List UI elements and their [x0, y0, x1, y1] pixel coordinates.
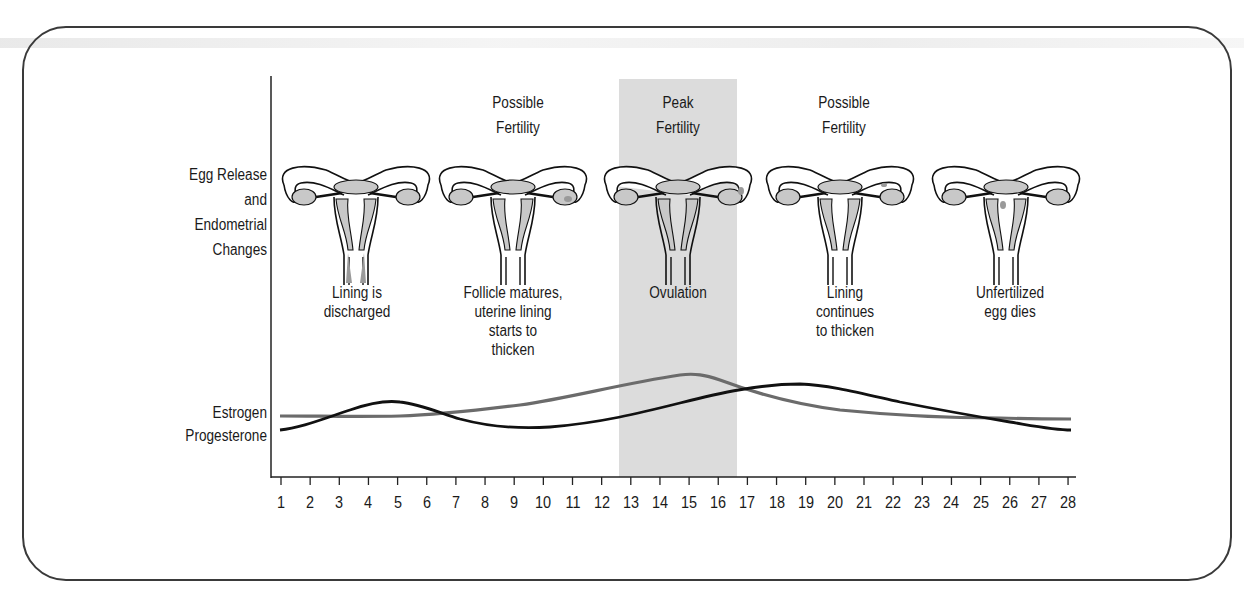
x-tick-label: 9: [501, 493, 527, 513]
caption-line: discharged: [302, 302, 413, 321]
egg-release-label: Egg Release and Endometrial Changes: [150, 165, 267, 259]
x-tick-label: 12: [589, 493, 615, 513]
x-tick-label: 4: [356, 493, 382, 513]
caption-line: to thicken: [790, 321, 901, 340]
stage-caption-2: Follicle matures, uterine lining starts …: [443, 283, 583, 359]
x-tick-label: 25: [968, 493, 994, 513]
fertility-line: Peak: [636, 93, 721, 112]
row-label-line: Endometrial: [168, 215, 267, 234]
x-axis-ticks: [281, 477, 1068, 485]
fertility-line: Possible: [476, 93, 561, 112]
x-tick-label: 5: [385, 493, 411, 513]
x-tick-label: 14: [647, 493, 673, 513]
x-tick-label: 3: [327, 493, 353, 513]
x-tick-label: 2: [297, 493, 323, 513]
row-label-line: Changes: [168, 240, 267, 259]
stage-caption-3: Ovulation: [613, 283, 743, 302]
row-label-line: and: [168, 190, 267, 209]
x-tick-label: 24: [939, 493, 965, 513]
x-tick-label: 7: [443, 493, 469, 513]
x-tick-label: 19: [793, 493, 819, 513]
possible-fertility-label-2: Possible Fertility: [794, 93, 894, 137]
caption-line: continues: [790, 302, 901, 321]
x-tick-label: 20: [822, 493, 848, 513]
fertility-line: Fertility: [802, 118, 887, 137]
uterus-icon: [604, 167, 751, 285]
x-tick-label: 13: [618, 493, 644, 513]
x-tick-label: 28: [1055, 493, 1081, 513]
row-label-line: Egg Release: [168, 165, 267, 184]
uterus-icon: [932, 167, 1079, 285]
caption-line: Follicle matures,: [454, 283, 573, 302]
x-tick-label: 18: [764, 493, 790, 513]
fertility-line: Fertility: [476, 118, 561, 137]
caption-line: Unfertilized: [955, 283, 1066, 302]
x-tick-label: 17: [735, 493, 761, 513]
progesterone-curve: [280, 384, 1071, 430]
possible-fertility-label-1: Possible Fertility: [468, 93, 568, 137]
caption-line: starts to: [454, 321, 573, 340]
x-tick-label: 22: [880, 493, 906, 513]
caption-line: uterine lining: [454, 302, 573, 321]
caption-line: Lining: [790, 283, 901, 302]
stage-caption-5: Unfertilized egg dies: [945, 283, 1075, 321]
x-tick-label: 26: [997, 493, 1023, 513]
caption-line: thicken: [454, 340, 573, 359]
peak-fertility-label: Peak Fertility: [628, 93, 728, 137]
uterus-icon: [282, 167, 429, 285]
fertility-line: Possible: [802, 93, 887, 112]
x-tick-label: 10: [531, 493, 557, 513]
x-tick-label: 11: [560, 493, 586, 513]
x-tick-label: 1: [268, 493, 294, 513]
uterus-icon: [439, 167, 586, 285]
fertility-line: Fertility: [636, 118, 721, 137]
uterus-icon: [766, 167, 913, 285]
x-tick-label: 27: [1026, 493, 1052, 513]
caption-line: Ovulation: [623, 283, 734, 302]
stage-caption-1: Lining is discharged: [292, 283, 422, 321]
stage-caption-4: Lining continues to thicken: [780, 283, 910, 340]
estrogen-label: Estrogen: [168, 403, 267, 422]
uterus-illustrations: [282, 167, 1079, 285]
x-tick-label: 21: [851, 493, 877, 513]
x-tick-label: 23: [910, 493, 936, 513]
x-tick-label: 6: [414, 493, 440, 513]
x-tick-label: 15: [676, 493, 702, 513]
caption-line: egg dies: [955, 302, 1066, 321]
progesterone-label: Progesterone: [168, 426, 267, 445]
caption-line: Lining is: [302, 283, 413, 302]
x-tick-label: 8: [472, 493, 498, 513]
x-tick-label: 16: [706, 493, 732, 513]
